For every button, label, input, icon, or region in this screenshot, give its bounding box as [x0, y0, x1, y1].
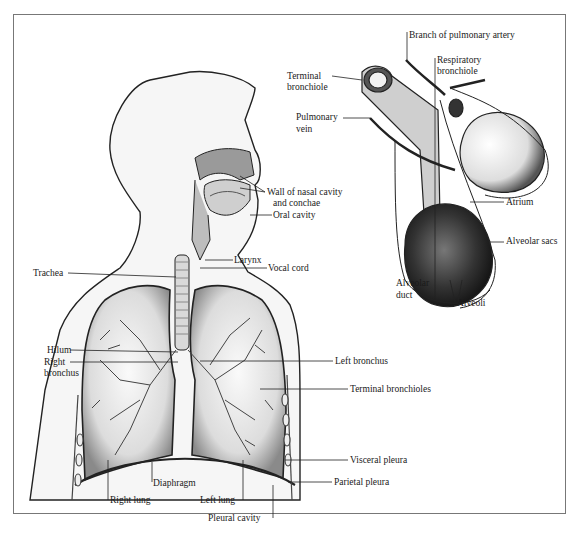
leader-lines: [0, 0, 581, 543]
